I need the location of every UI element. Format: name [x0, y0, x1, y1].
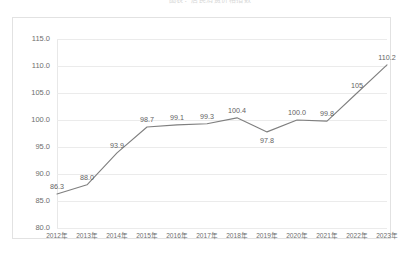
x-axis-tick-label: 2020年: [286, 231, 308, 241]
x-axis-tick-label: 2017年: [196, 231, 218, 241]
data-point-label: 97.8: [260, 136, 274, 145]
chart-screenshot: 图表：居民消费价格指数 80.085.090.095.0100.0105.011…: [0, 0, 399, 256]
data-point-label: 110.2: [378, 53, 395, 62]
y-axis-tick-label: 110.0: [32, 62, 50, 70]
x-axis-tick-label: 2015年: [136, 231, 158, 241]
x-axis-tick-label: 2023年: [376, 231, 398, 241]
line-series: [57, 39, 387, 228]
y-axis-tick-label: 100.0: [31, 116, 50, 124]
x-axis-tick-label: 2021年: [316, 231, 338, 241]
data-point-label: 99.1: [170, 113, 184, 122]
data-point-label: 99.8: [320, 109, 334, 118]
data-point-label: 99.3: [200, 112, 214, 121]
x-axis-tick-label: 2022年: [346, 231, 368, 241]
x-axis-tick-label: 2018年: [226, 231, 248, 241]
data-point-label: 88.0: [80, 173, 94, 182]
plot-area: 80.085.090.095.0100.0105.0110.0115.0 86.…: [57, 39, 387, 228]
x-axis-tick-labels: 2012年2013年2014年2015年2016年2017年2018年2019年…: [57, 231, 387, 245]
x-axis-tick-label: 2016年: [166, 231, 188, 241]
clipped-caption-text: 图表：居民消费价格指数: [60, 0, 360, 4]
x-axis-tick-label: 2019年: [256, 231, 278, 241]
data-point-label: 100.0: [288, 108, 306, 117]
x-axis-tick-label: 2012年: [46, 231, 68, 241]
y-axis-tick-label: 85.0: [35, 197, 50, 205]
x-axis-tick-label: 2013年: [76, 231, 98, 241]
data-point-label: 105: [351, 81, 363, 90]
data-point-label: 93.9: [110, 141, 124, 150]
y-axis-tick-label: 95.0: [35, 143, 50, 151]
gridline: [57, 228, 387, 229]
y-axis-tick-label: 115.0: [32, 35, 50, 43]
series-polyline: [57, 65, 387, 194]
x-axis-tick-label: 2014年: [106, 231, 128, 241]
data-point-label: 100.4: [228, 106, 246, 115]
data-point-label: 98.7: [140, 115, 154, 124]
chart-frame: 80.085.090.095.0100.0105.0110.0115.0 86.…: [12, 17, 391, 239]
data-point-label: 86.3: [50, 182, 64, 191]
y-axis-tick-label: 90.0: [35, 170, 50, 178]
y-axis-tick-label: 105.0: [31, 89, 50, 97]
